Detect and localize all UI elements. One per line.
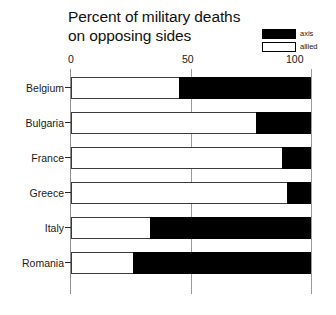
chart-legend: axis allied (262, 28, 334, 54)
chart-title-line-2: on opposing sides (68, 26, 268, 45)
chart-figure: Percent of military deaths on opposing s… (0, 0, 336, 315)
x-axis-tick-label-0: 0 (68, 53, 74, 65)
bar-axis-france (282, 147, 311, 169)
legend-item-allied: allied (262, 41, 334, 52)
bar-allied-greece (71, 182, 311, 204)
y-axis-category-labels: Belgium Bulgaria France Greece Italy Rom… (0, 69, 64, 284)
table-row (71, 217, 311, 239)
gridline-100 (311, 69, 312, 294)
legend-label-axis: axis (300, 29, 313, 39)
bar-axis-belgium (179, 77, 311, 99)
bar-axis-romania (133, 252, 311, 274)
bar-axis-greece (287, 182, 311, 204)
chart-title: Percent of military deaths on opposing s… (68, 7, 268, 45)
category-label-belgium: Belgium (0, 82, 64, 94)
table-row (71, 147, 311, 169)
chart-title-line-1: Percent of military deaths (68, 7, 268, 26)
x-axis-tick-label-50: 50 (182, 53, 194, 65)
legend-label-allied: allied (300, 42, 318, 52)
bar-axis-bulgaria (256, 112, 311, 134)
legend-swatch-allied-icon (262, 42, 296, 52)
category-label-france: France (0, 152, 64, 164)
bar-allied-france (71, 147, 311, 169)
bar-axis-italy (150, 217, 311, 239)
category-label-italy: Italy (0, 222, 64, 234)
category-label-bulgaria: Bulgaria (0, 117, 64, 129)
bar-series-group (71, 69, 311, 284)
table-row (71, 77, 311, 99)
table-row (71, 252, 311, 274)
x-axis-tick-label-100: 100 (286, 53, 304, 65)
table-row (71, 112, 311, 134)
legend-item-axis: axis (262, 28, 334, 39)
legend-swatch-axis-icon (262, 29, 296, 39)
table-row (71, 182, 311, 204)
category-label-romania: Romania (0, 257, 64, 269)
category-label-greece: Greece (0, 187, 64, 199)
plot-area: 0 50 100 (71, 69, 311, 284)
